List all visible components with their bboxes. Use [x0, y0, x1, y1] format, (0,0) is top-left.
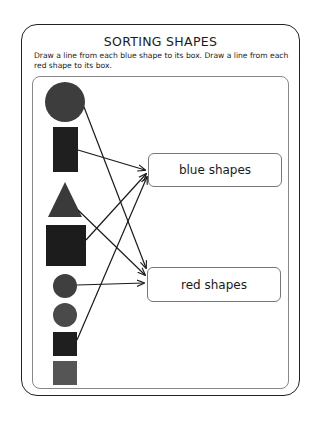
arrow-large-square-to-blue	[86, 174, 146, 240]
shape-triangle[interactable]	[48, 182, 82, 217]
shape-large-circle[interactable]	[45, 82, 85, 122]
shape-small-circle-2[interactable]	[53, 303, 77, 327]
shape-small-circle-1[interactable]	[53, 274, 77, 298]
shape-tall-rectangle[interactable]	[53, 127, 78, 172]
shapes-and-arrows	[0, 0, 312, 422]
shape-small-square-dark[interactable]	[53, 332, 77, 356]
shape-small-square-grey[interactable]	[53, 361, 77, 385]
shape-large-square[interactable]	[46, 225, 86, 266]
arrow-rectangle-to-blue	[78, 150, 145, 170]
arrow-large-circle-to-red	[84, 107, 146, 268]
arrow-small-square-to-blue	[77, 177, 147, 340]
arrow-triangle-to-red	[78, 210, 145, 275]
arrow-small-circle-to-red	[77, 283, 144, 285]
